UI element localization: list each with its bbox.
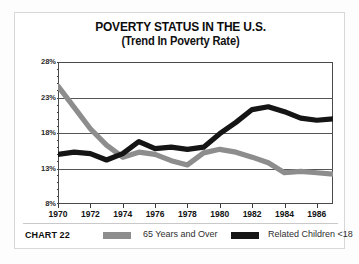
x-axis-tick-label: 1980 [203, 209, 237, 219]
footer-divider [23, 223, 338, 224]
y-axis-tick-label: 8% [30, 200, 56, 208]
y-axis-tick-label: 13% [30, 165, 56, 173]
x-axis-tick-label: 1972 [73, 209, 107, 219]
chart-title-block: POVERTY STATUS IN THE U.S. (Trend In Pov… [15, 19, 346, 49]
x-axis-tick [252, 204, 253, 208]
x-axis-tick-label: 1978 [170, 209, 204, 219]
series-lines [58, 62, 333, 204]
x-axis-tick [90, 204, 91, 208]
x-axis-tick [285, 204, 286, 208]
y-axis-tick-label: 28% [30, 58, 56, 66]
x-axis-tick-label: 1986 [300, 209, 334, 219]
plot-area [58, 62, 333, 204]
legend-label-65-and-over: 65 Years and Over [143, 229, 218, 239]
x-axis-tick-label: 1982 [235, 209, 269, 219]
y-axis-tick-label: 18% [30, 129, 56, 137]
series-line-related-children [58, 107, 333, 160]
x-axis-tick-label: 1970 [41, 209, 75, 219]
x-axis-tick [187, 204, 188, 208]
x-axis-tick [58, 204, 59, 208]
chart-subtitle: (Trend In Poverty Rate) [27, 34, 335, 49]
screenshot-canvas: POVERTY STATUS IN THE U.S. (Trend In Pov… [0, 0, 359, 264]
y-axis-labels: 28% 23% 18% 13% 8% [29, 62, 56, 204]
x-axis-labels: 197019721974197619781980198219841986 [58, 209, 334, 221]
x-axis-tick [220, 204, 221, 208]
x-axis-tick-label: 1984 [268, 209, 302, 219]
legend-label-related-children: Related Children <18 [268, 229, 353, 239]
chart-number-label: CHART 22 [25, 230, 70, 240]
x-axis-tick-label: 1974 [106, 209, 140, 219]
legend-swatch-65-and-over [103, 232, 131, 239]
page-title: POVERTY STATUS IN THE U.S. [28, 19, 333, 34]
y-axis-tick-label: 23% [30, 94, 56, 102]
x-axis-tick [123, 204, 124, 208]
x-axis-tick [317, 204, 318, 208]
x-axis-tick-label: 1976 [138, 209, 172, 219]
series-line-65-and-over [58, 86, 333, 174]
chart-footer: CHART 22 65 Years and Over Related Child… [15, 226, 346, 248]
chart-card: POVERTY STATUS IN THE U.S. (Trend In Pov… [14, 12, 345, 249]
x-axis-tick [155, 204, 156, 208]
legend-swatch-related-children [231, 232, 259, 239]
